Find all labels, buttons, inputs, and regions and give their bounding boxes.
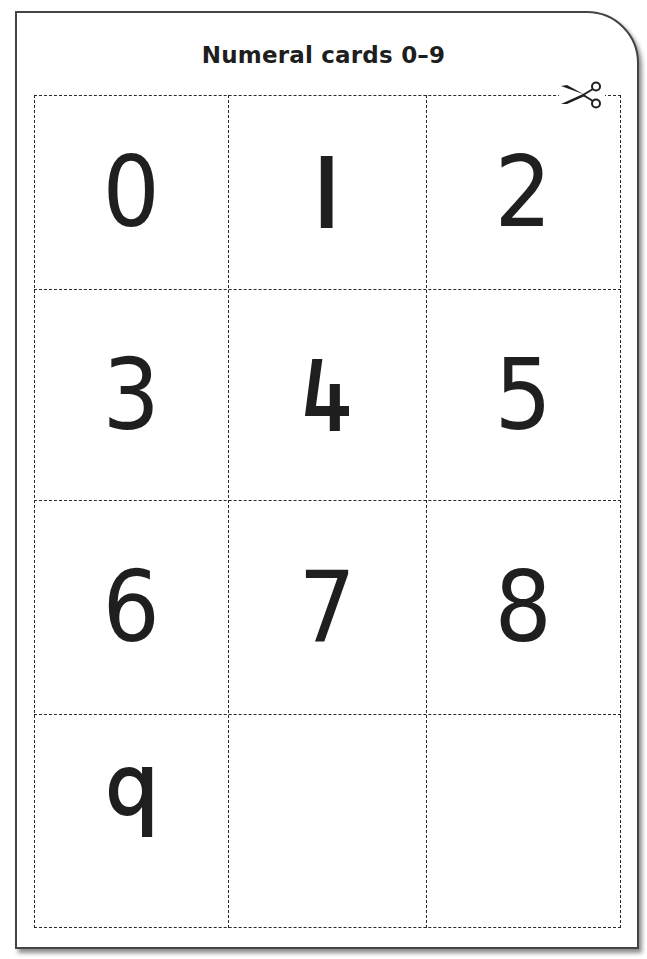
- blank-card[interactable]: [426, 714, 620, 927]
- numeral: 3: [102, 346, 159, 444]
- numeral: [321, 156, 334, 228]
- numeral-card-6[interactable]: 6: [34, 500, 228, 714]
- scissors-icon: [559, 80, 605, 110]
- cut-line-horizontal: [34, 927, 621, 928]
- numeral: 2: [494, 143, 551, 241]
- numeral-card-2[interactable]: 2: [426, 95, 620, 289]
- numeral: [109, 765, 153, 837]
- numeral-card-7[interactable]: 7: [228, 500, 426, 714]
- numeral-card-9[interactable]: [34, 714, 228, 927]
- numeral: 7: [298, 558, 355, 656]
- numeral-card-8[interactable]: 8: [426, 500, 620, 714]
- card-grid: 0 2 3 5 6 7 8: [34, 95, 621, 928]
- page-title: Numeral cards 0–9: [0, 42, 647, 68]
- numeral: 8: [494, 558, 551, 656]
- numeral: 6: [102, 558, 159, 656]
- cut-line-vertical: [620, 95, 621, 928]
- numeral: 0: [102, 143, 159, 241]
- numeral-card-5[interactable]: 5: [426, 289, 620, 500]
- numeral: [305, 359, 349, 431]
- numeral-card-4[interactable]: [228, 289, 426, 500]
- numeral: 5: [494, 346, 551, 444]
- blank-card[interactable]: [228, 714, 426, 927]
- numeral-card-3[interactable]: 3: [34, 289, 228, 500]
- numeral-card-0[interactable]: 0: [34, 95, 228, 289]
- numeral-card-1[interactable]: [228, 95, 426, 289]
